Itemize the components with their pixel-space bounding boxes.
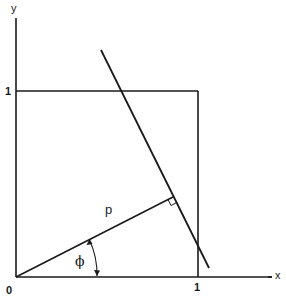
x-tick-one-label: 1 xyxy=(194,282,200,293)
angle-label-phi: ϕ xyxy=(75,254,85,268)
normal-line-p xyxy=(16,197,173,277)
x-axis-label: x xyxy=(275,270,281,281)
diagram-canvas xyxy=(0,0,286,298)
oblique-line xyxy=(101,50,209,268)
y-axis-label: y xyxy=(11,3,17,14)
origin-label: 0 xyxy=(6,285,12,296)
arc-arrowhead-bottom xyxy=(94,270,100,276)
distance-label-p: p xyxy=(105,203,112,216)
y-tick-one-label: 1 xyxy=(5,86,11,97)
